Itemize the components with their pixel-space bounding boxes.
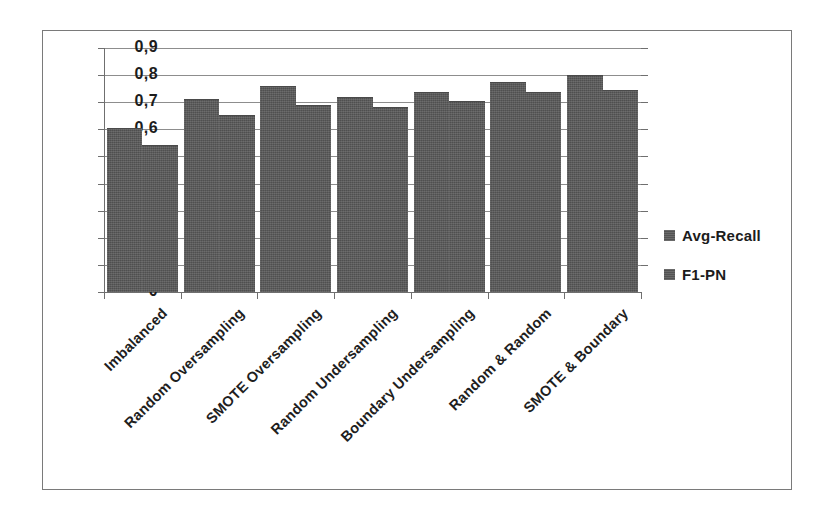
chart-legend: Avg-RecallF1-PN: [664, 227, 784, 305]
x-axis-category-label: Random & Random: [401, 305, 554, 458]
x-axis-tick: [104, 292, 105, 299]
x-axis-tick: [411, 292, 412, 299]
y-axis-tick-right: [641, 129, 648, 130]
bar: [526, 92, 562, 292]
bar: [567, 75, 603, 292]
bar: [449, 101, 485, 292]
x-axis-tick: [641, 292, 642, 299]
bars-layer: [104, 48, 641, 292]
bar: [142, 145, 178, 292]
bar: [296, 105, 332, 292]
legend-swatch-f1-pn: [664, 269, 675, 280]
bar: [184, 99, 220, 292]
y-axis-tick-right: [641, 48, 648, 49]
y-axis-tick-right: [641, 156, 648, 157]
bar: [373, 107, 409, 292]
legend-label: F1-PN: [682, 266, 726, 283]
y-axis-tick-right: [641, 211, 648, 212]
bar: [260, 86, 296, 292]
x-axis-tick: [257, 292, 258, 299]
x-axis-category-label: Random Oversampling: [95, 305, 248, 458]
x-axis-category-label: Random Undersampling: [248, 305, 401, 458]
legend-entry: F1-PN: [664, 266, 784, 283]
legend-entry: Avg-Recall: [664, 227, 784, 244]
legend-swatch-avg-recall: [664, 230, 675, 241]
chart-frame: 0,90,80,70,60,50,40,30,20,10 ImbalancedR…: [42, 30, 792, 490]
x-axis-tick: [181, 292, 182, 299]
y-axis-tick-right: [641, 184, 648, 185]
bar: [490, 82, 526, 292]
x-axis-category-label: SMOTE & Boundary: [478, 305, 631, 458]
gridline: [104, 292, 641, 293]
x-axis-tick: [488, 292, 489, 299]
x-axis-tick: [334, 292, 335, 299]
plot-area: 0,90,80,70,60,50,40,30,20,10 ImbalancedR…: [104, 48, 641, 292]
y-axis-tick-right: [641, 238, 648, 239]
bar: [603, 90, 639, 292]
x-axis-category-label: Boundary Undersampling: [325, 305, 478, 458]
y-axis-tick-right: [641, 75, 648, 76]
bar: [219, 115, 255, 292]
y-axis-tick-right: [641, 102, 648, 103]
x-axis-tick: [564, 292, 565, 299]
bar: [414, 92, 450, 292]
y-axis-tick-right: [641, 265, 648, 266]
bar: [107, 128, 143, 292]
x-axis-category-label: Imbalanced: [18, 305, 171, 458]
bar: [337, 97, 373, 292]
x-axis-category-label: SMOTE Oversampling: [171, 305, 324, 458]
legend-label: Avg-Recall: [682, 227, 761, 244]
